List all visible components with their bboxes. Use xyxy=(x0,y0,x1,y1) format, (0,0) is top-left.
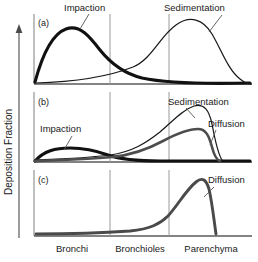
panel-a-tag: (a) xyxy=(38,18,49,28)
panel-b-label-impaction: Impaction xyxy=(40,123,81,134)
figure-canvas: Deposition Fraction (a) Impaction Sedime… xyxy=(0,0,258,262)
panel-a: (a) Impaction Sedimentation xyxy=(34,2,252,84)
panel-c-curve-diffusion xyxy=(36,179,216,234)
deposition-fraction-figure: Deposition Fraction (a) Impaction Sedime… xyxy=(0,0,258,262)
x-axis-label-parenchyma: Parenchyma xyxy=(184,243,238,254)
x-axis-label-bronchi: Bronchi xyxy=(56,243,88,254)
x-axis-categories: Bronchi Bronchioles Parenchyma xyxy=(56,243,238,254)
x-axis-label-bronchioles: Bronchioles xyxy=(115,243,165,254)
panel-a-curve-impaction xyxy=(35,28,250,84)
panel-c-label-diffusion: Diffusion xyxy=(208,174,245,185)
panel-c: (c) Diffusion xyxy=(34,170,252,236)
panel-a-label-sedimentation: Sedimentation xyxy=(164,2,225,13)
panel-a-label-impaction: Impaction xyxy=(64,2,105,13)
panel-b: (b) Impaction Sedimentation Diffusion xyxy=(34,92,252,162)
panel-a-leader-sedimentation xyxy=(209,15,222,32)
panel-b-label-diffusion: Diffusion xyxy=(208,118,245,129)
panel-b-label-sedimentation: Sedimentation xyxy=(168,96,229,107)
y-axis-arrow xyxy=(16,24,23,238)
y-axis-label: Deposition Fraction xyxy=(3,109,14,195)
panel-b-tag: (b) xyxy=(38,97,49,107)
panel-b-leader-sedimentation xyxy=(186,108,195,118)
panel-a-leader-impaction xyxy=(80,14,89,29)
panel-c-tag: (c) xyxy=(38,175,49,185)
